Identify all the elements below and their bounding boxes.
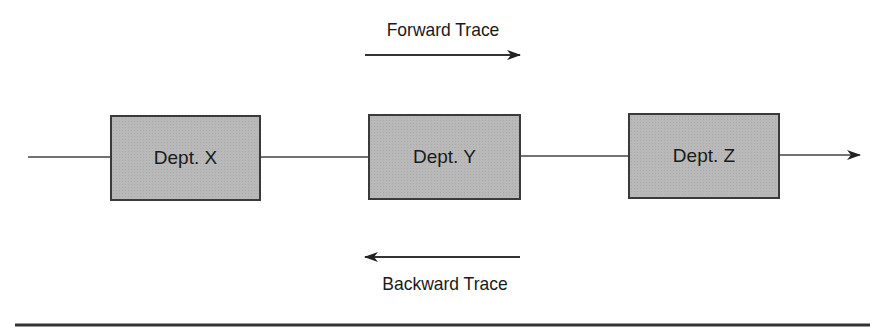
dept-z-box: Dept. Z <box>628 113 780 199</box>
dept-z-label: Dept. Z <box>673 145 735 167</box>
backward-trace-label: Backward Trace <box>382 273 507 295</box>
dept-y-box: Dept. Y <box>368 114 521 200</box>
dept-x-label: Dept. X <box>154 147 217 169</box>
dept-x-box: Dept. X <box>110 115 261 201</box>
dept-y-label: Dept. Y <box>413 146 476 168</box>
forward-trace-label: Forward Trace <box>387 19 500 41</box>
